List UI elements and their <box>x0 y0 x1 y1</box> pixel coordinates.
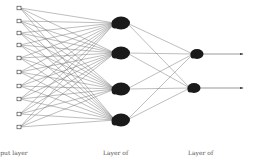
edge <box>20 72 115 120</box>
edge <box>20 21 115 53</box>
edge <box>20 23 115 114</box>
edge <box>20 23 115 45</box>
edge <box>20 21 115 23</box>
output-arrows <box>199 54 243 88</box>
input-layer-nodes <box>17 6 21 129</box>
edge <box>127 88 190 120</box>
source-node <box>17 70 21 74</box>
hidden-layer-neurons <box>112 17 131 127</box>
edge <box>20 8 115 23</box>
source-node <box>17 43 21 47</box>
edge <box>127 23 190 88</box>
edge <box>127 54 193 89</box>
edge <box>20 58 115 120</box>
input-layer-label: Input layer of source nodes <box>0 138 28 165</box>
hidden-neuron-dendrite <box>112 117 119 126</box>
hidden-neuron-dendrite <box>112 50 119 59</box>
output-neuron-dendrite <box>191 52 196 59</box>
hidden-layer-label: Layer of hidden neurons <box>103 138 128 165</box>
edge <box>20 23 115 127</box>
source-node <box>17 112 21 116</box>
source-node <box>17 6 21 10</box>
output-neuron-dendrite <box>188 86 193 93</box>
edge <box>20 33 115 53</box>
edge <box>20 89 115 99</box>
hidden-neuron-dendrite <box>112 86 119 95</box>
source-node <box>17 56 21 60</box>
edge <box>20 23 115 58</box>
output-layer-label: Layer of output neurons <box>188 138 213 165</box>
edge <box>20 53 115 58</box>
edge <box>20 120 115 127</box>
edge <box>127 54 193 120</box>
connection-edges <box>20 8 193 127</box>
edge <box>127 23 193 54</box>
edge <box>20 89 115 127</box>
hidden-label-line-1: Layer of <box>103 150 128 156</box>
output-label-line-1: Layer of <box>188 150 213 156</box>
edge <box>20 8 115 89</box>
input-label-line-1: Input layer <box>0 150 28 156</box>
edge <box>127 53 190 88</box>
edge <box>20 89 115 114</box>
source-node <box>17 19 21 23</box>
edge <box>20 21 115 89</box>
edge <box>127 53 193 54</box>
edge <box>20 53 115 99</box>
source-node <box>17 31 21 35</box>
neural-network-diagram <box>0 0 257 165</box>
source-node <box>17 97 21 101</box>
edge <box>20 53 115 86</box>
source-node <box>17 84 21 88</box>
source-node <box>17 125 21 129</box>
hidden-neuron-dendrite <box>112 20 119 29</box>
